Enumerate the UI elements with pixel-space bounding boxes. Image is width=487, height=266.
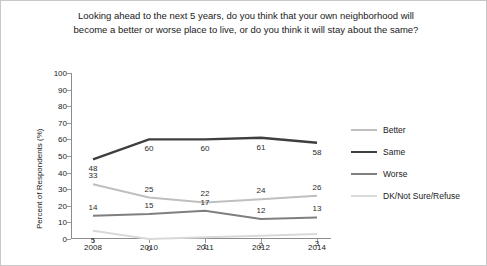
y-tick-label: 80 [58,102,67,111]
legend: BetterSameWorseDK/Not Sure/Refuse [351,119,481,207]
legend-label: DK/Not Sure/Refuse [383,191,460,201]
y-tick-label: 30 [58,185,67,194]
y-tick-mark [67,239,71,240]
data-point-label: 24 [257,186,266,195]
y-tick-label: 100 [54,69,67,78]
data-point-label: 14 [89,202,98,211]
legend-item[interactable]: Worse [351,163,481,185]
legend-swatch [351,151,377,153]
y-axis-label: Percent of Respondents (%) [23,79,37,229]
y-tick-label: 20 [58,201,67,210]
series-line [93,231,317,239]
y-tick-label: 90 [58,85,67,94]
data-point-label: 61 [257,142,266,151]
series-line [93,211,317,219]
data-point-label: 15 [145,201,154,210]
data-point-label: 58 [313,147,322,156]
y-axis-label-text: Percent of Respondents (%) [35,129,44,230]
data-point-label: 3 [315,239,319,248]
data-point-label: 17 [201,197,210,206]
data-point-label: 60 [201,144,210,153]
data-point-label: 26 [313,182,322,191]
legend-swatch [351,129,377,131]
legend-swatch [351,173,377,175]
data-point-label: 0 [147,244,151,253]
series-lines [71,73,331,239]
y-tick-label: 50 [58,152,67,161]
data-point-label: 1 [203,242,207,251]
data-point-label: 12 [257,206,266,215]
data-point-label: 5 [91,235,95,244]
x-tick-label: 2008 [84,243,102,252]
data-point-label: 60 [145,144,154,153]
y-tick-label: 10 [58,218,67,227]
legend-label: Worse [383,169,407,179]
legend-label: Better [383,125,406,135]
y-tick-label: 40 [58,168,67,177]
legend-label: Same [383,147,405,157]
data-point-label: 48 [89,164,98,173]
y-tick-label: 60 [58,135,67,144]
chart-title: Looking ahead to the next 5 years, do yo… [61,9,431,37]
data-point-label: 2 [259,240,263,249]
y-tick-label: 70 [58,118,67,127]
chart-container: Looking ahead to the next 5 years, do yo… [0,0,487,266]
data-point-label: 25 [145,184,154,193]
data-point-label: 13 [313,204,322,213]
legend-item[interactable]: DK/Not Sure/Refuse [351,185,481,207]
legend-swatch [351,195,377,197]
legend-item[interactable]: Better [351,119,481,141]
plot-area: 0102030405060708090100 20082010201120122… [71,73,331,239]
legend-item[interactable]: Same [351,141,481,163]
